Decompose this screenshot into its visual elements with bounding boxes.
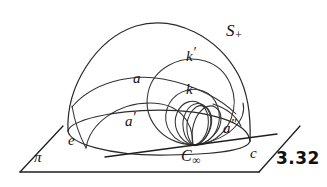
label-line-c: c [250, 146, 257, 161]
label-plane-pi: π [34, 150, 42, 165]
label-circle-k-prime: k′ [186, 45, 196, 64]
label-circle-a-double-prime: a″ [223, 117, 236, 136]
figure-3-32: S+ k′ a k a′ a″ e C∞ c π 3.32 [0, 0, 327, 187]
label-circle-a: a [133, 71, 141, 86]
circle-a-prime-arc [86, 103, 193, 148]
circle-a-prime [86, 103, 193, 148]
label-circle-a-prime: a′ [125, 110, 136, 129]
figure-number: 3.32 [276, 150, 320, 167]
label-point-c-infinity: C∞ [181, 148, 200, 166]
label-circle-k: k [186, 82, 193, 97]
label-hemisphere-s-plus: S+ [226, 22, 242, 41]
label-ellipse-e: e [68, 133, 75, 148]
